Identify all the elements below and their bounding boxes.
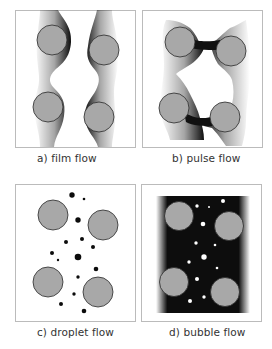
particle [216, 36, 246, 66]
particle [159, 93, 189, 123]
panel-film-flow [16, 10, 136, 148]
particle [33, 267, 63, 297]
panel-frame [16, 185, 136, 322]
flow-regimes-diagram [0, 0, 272, 349]
particle [37, 25, 67, 55]
caption-film-flow: a) film flow [37, 152, 97, 164]
panel-frame [16, 11, 136, 148]
particle [38, 200, 68, 230]
particle [165, 202, 194, 231]
particle [215, 212, 244, 241]
caption-pulse-flow: b) pulse flow [172, 152, 241, 164]
panel-droplet-flow [16, 185, 136, 322]
particle [83, 277, 113, 307]
particle [84, 102, 114, 132]
particle [160, 268, 189, 297]
particle [211, 278, 240, 307]
particle [89, 35, 119, 65]
particle [210, 102, 240, 132]
panel-pulse-flow [143, 11, 263, 148]
particle [165, 27, 195, 57]
caption-bubble-flow: d) bubble flow [169, 326, 246, 338]
particle [88, 210, 118, 240]
panel-bubble-flow [142, 185, 262, 322]
caption-droplet-flow: c) droplet flow [37, 326, 114, 338]
particle [33, 92, 63, 122]
